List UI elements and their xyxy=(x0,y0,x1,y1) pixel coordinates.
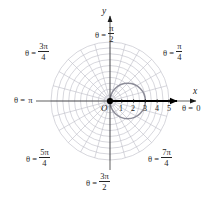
theta-prefix-pi-2: θ = xyxy=(95,30,106,40)
fraction-denominator-pi-4: 4 xyxy=(176,52,182,61)
theta-value-pi: π xyxy=(27,95,33,105)
theta-label-3pi-2: θ = 3π 2 xyxy=(86,172,110,191)
theta-label-pi: θ = π xyxy=(14,96,33,105)
fraction-denominator-3pi-2: 2 xyxy=(99,182,110,191)
fraction-pi-2: π 2 xyxy=(108,24,114,43)
fraction-denominator-7pi-4: 4 xyxy=(161,158,172,167)
theta-prefix-7pi-4: θ = xyxy=(148,154,159,164)
tick-label-5: 5 xyxy=(167,104,171,113)
origin-label: O xyxy=(101,103,108,113)
fraction-3pi-2: 3π 2 xyxy=(99,172,110,191)
fraction-3pi-4: 3π 4 xyxy=(38,42,49,61)
theta-prefix-5pi-4: θ = xyxy=(26,154,37,164)
theta-value-0: 0 xyxy=(195,103,201,113)
theta-prefix-3pi-4: θ = xyxy=(25,48,36,58)
theta-label-pi-4: θ = π 4 xyxy=(163,42,182,61)
theta-prefix-pi: θ = xyxy=(14,95,25,105)
theta-label-5pi-4: θ = 5π 4 xyxy=(26,148,50,167)
fraction-5pi-4: 5π 4 xyxy=(39,148,50,167)
y-axis-label: y xyxy=(102,6,106,16)
fraction-7pi-4: 7π 4 xyxy=(161,148,172,167)
fraction-numerator-pi-4: π xyxy=(176,42,182,52)
tick-label-2: 2 xyxy=(131,104,135,113)
theta-prefix-0: θ = xyxy=(182,103,193,113)
theta-label-pi-2: θ = π 2 xyxy=(95,24,114,43)
fraction-denominator-3pi-4: 4 xyxy=(38,52,49,61)
fraction-denominator-pi-2: 2 xyxy=(108,34,114,43)
theta-label-7pi-4: θ = 7π 4 xyxy=(148,148,172,167)
theta-prefix-pi-4: θ = xyxy=(163,48,174,58)
fraction-numerator-pi-2: π xyxy=(108,24,114,34)
fraction-numerator-5pi-4: 5π xyxy=(39,148,50,158)
tick-label-1: 1 xyxy=(119,104,123,113)
polar-coordinate-figure: y x O 1 2 3 4 5 θ = 0 θ = π 4 θ = π 2 θ … xyxy=(0,0,221,202)
x-axis-label: x xyxy=(193,86,197,96)
fraction-numerator-3pi-2: 3π xyxy=(99,172,110,182)
theta-label-0: θ = 0 xyxy=(182,104,201,113)
fraction-numerator-7pi-4: 7π xyxy=(161,148,172,158)
theta-label-3pi-4: θ = 3π 4 xyxy=(25,42,49,61)
fraction-pi-4: π 4 xyxy=(176,42,182,61)
tick-label-3: 3 xyxy=(143,104,147,113)
tick-label-4: 4 xyxy=(155,104,159,113)
fraction-numerator-3pi-4: 3π xyxy=(38,42,49,52)
fraction-denominator-5pi-4: 4 xyxy=(39,158,50,167)
theta-prefix-3pi-2: θ = xyxy=(86,178,97,188)
